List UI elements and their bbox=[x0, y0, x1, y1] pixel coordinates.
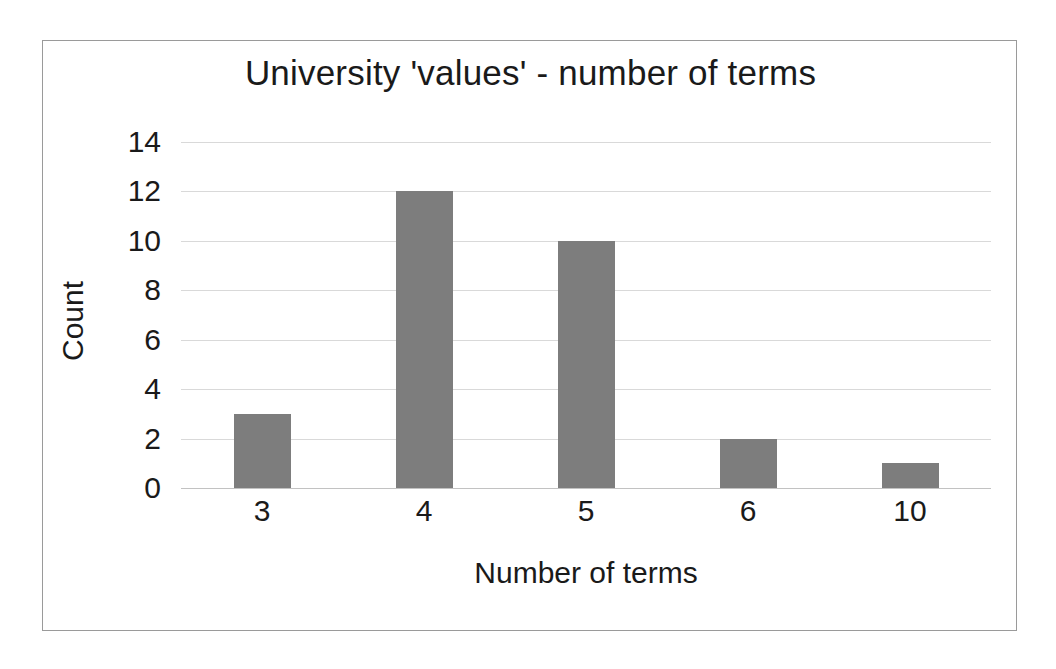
x-axis-tick-4: 4 bbox=[416, 496, 433, 526]
chart-page: University 'values' - number of terms Co… bbox=[0, 0, 1056, 669]
gridline-14 bbox=[181, 142, 991, 143]
y-axis-tick-14: 14 bbox=[128, 127, 161, 157]
y-axis-tick-2: 2 bbox=[144, 424, 161, 454]
y-axis-tick-10: 10 bbox=[128, 226, 161, 256]
plot-area bbox=[181, 142, 991, 488]
bar bbox=[882, 463, 939, 488]
gridline-0 bbox=[181, 488, 991, 489]
gridline-12 bbox=[181, 191, 991, 192]
bar bbox=[396, 191, 453, 488]
y-axis-tick-8: 8 bbox=[144, 275, 161, 305]
y-axis-tick-0: 0 bbox=[144, 473, 161, 503]
bar bbox=[234, 414, 291, 488]
x-axis-title: Number of terms bbox=[181, 556, 991, 590]
x-axis-tick-labels: 345610 bbox=[181, 496, 991, 541]
chart-title: University 'values' - number of terms bbox=[43, 53, 1018, 93]
bar bbox=[558, 241, 615, 488]
y-axis-tick-4: 4 bbox=[144, 374, 161, 404]
x-axis-tick-5: 5 bbox=[578, 496, 595, 526]
y-axis-tick-12: 12 bbox=[128, 176, 161, 206]
x-axis-tick-6: 6 bbox=[740, 496, 757, 526]
y-axis-tick-labels: 02468101214 bbox=[123, 142, 161, 488]
y-axis-title: Count bbox=[53, 201, 93, 441]
y-axis-title-label: Count bbox=[56, 281, 90, 361]
y-axis-tick-6: 6 bbox=[144, 325, 161, 355]
bar bbox=[720, 439, 777, 488]
x-axis-tick-10: 10 bbox=[893, 496, 926, 526]
x-axis-tick-3: 3 bbox=[254, 496, 271, 526]
chart-frame: University 'values' - number of terms Co… bbox=[42, 40, 1017, 631]
